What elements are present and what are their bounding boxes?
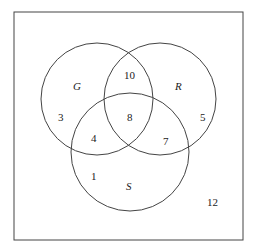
- region-s-only: 1: [91, 170, 97, 182]
- region-g-r: 10: [124, 69, 136, 81]
- region-r-only: 5: [200, 111, 206, 123]
- region-outside: 12: [207, 196, 218, 208]
- region-g-s: 4: [91, 132, 97, 144]
- venn-diagram: G R S 3 5 1 10 4 7 8 12: [0, 0, 255, 251]
- set-label-r: R: [174, 80, 182, 92]
- set-label-s: S: [126, 180, 132, 192]
- region-r-s: 7: [163, 135, 169, 147]
- circle-r: [104, 43, 216, 155]
- region-g-r-s: 8: [127, 111, 133, 123]
- circle-g: [41, 43, 153, 155]
- region-g-only: 3: [58, 111, 64, 123]
- venn-canvas: G R S 3 5 1 10 4 7 8 12: [0, 0, 255, 251]
- set-label-g: G: [73, 80, 81, 92]
